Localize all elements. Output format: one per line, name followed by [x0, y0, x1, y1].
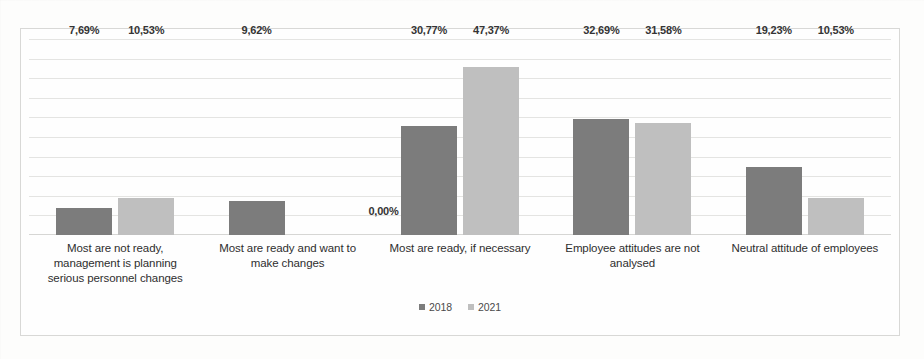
bar-group: 30,77% 47,37% — [374, 39, 546, 235]
bar-value-label: 19,23% — [756, 24, 792, 36]
bar-slot: 30,77% — [401, 39, 457, 235]
bar-slot: 47,37% — [463, 39, 519, 235]
bar-slot: 9,62% — [229, 39, 285, 235]
bar-2018[interactable] — [401, 126, 457, 235]
bar-2018[interactable] — [746, 167, 802, 235]
bar-slot: 19,23% — [746, 39, 802, 235]
bar-value-label: 47,37% — [473, 24, 509, 36]
plot-area: 7,69% 10,53% 9,62% 0,00% — [29, 39, 891, 235]
legend-label: 2021 — [478, 301, 501, 313]
bar-2021[interactable] — [808, 198, 864, 235]
legend-swatch-icon — [468, 304, 474, 310]
category-label: Most are not ready, management is planni… — [29, 241, 201, 286]
bar-value-label: 30,77% — [411, 24, 447, 36]
category-label-line: serious personnel changes — [31, 271, 199, 286]
bar-2021[interactable] — [635, 123, 691, 235]
category-label: Most are ready, if necessary — [374, 241, 546, 286]
bar-slot: 7,69% — [56, 39, 112, 235]
bar-value-label: 31,58% — [645, 24, 681, 36]
category-label-line: Most are ready and want to — [203, 241, 371, 256]
bar-value-label: 9,62% — [242, 24, 272, 36]
bar-value-label: 10,53% — [818, 24, 854, 36]
category-label-line: make changes — [203, 256, 371, 271]
bar-slot: 32,69% — [573, 39, 629, 235]
bar-value-label: 10,53% — [128, 24, 164, 36]
bar-group: 7,69% 10,53% — [29, 39, 201, 235]
category-label-line: Employee attitudes are not — [548, 241, 716, 256]
bar-group: 19,23% 10,53% — [719, 39, 891, 235]
bar-slot: 31,58% — [635, 39, 691, 235]
category-axis: Most are not ready, management is planni… — [29, 241, 891, 286]
bars-layer: 7,69% 10,53% 9,62% 0,00% — [29, 39, 891, 235]
bar-group: 32,69% 31,58% — [546, 39, 718, 235]
bar-2018[interactable] — [573, 119, 629, 235]
bar-2021[interactable] — [118, 198, 174, 235]
bar-value-label: 0,00% — [368, 205, 398, 217]
category-label-line: analysed — [548, 256, 716, 271]
chart-container: 7,69% 10,53% 9,62% 0,00% — [20, 28, 900, 336]
category-label-line: Most are not ready, — [31, 241, 199, 256]
legend-swatch-icon — [419, 304, 425, 310]
bar-2018[interactable] — [229, 201, 285, 235]
bar-slot: 10,53% — [808, 39, 864, 235]
legend-label: 2018 — [429, 301, 452, 313]
category-label-line: Most are ready, if necessary — [376, 241, 544, 256]
bar-value-label: 32,69% — [583, 24, 619, 36]
bar-value-label: 7,69% — [69, 24, 99, 36]
category-label: Employee attitudes are not analysed — [546, 241, 718, 286]
legend-item-2018[interactable]: 2018 — [419, 301, 452, 313]
category-label: Neutral attitude of employees — [719, 241, 891, 286]
bar-slot: 10,53% — [118, 39, 174, 235]
category-label-line: management is planning — [31, 256, 199, 271]
bar-slot: 0,00% — [291, 39, 347, 235]
bar-2018[interactable] — [56, 208, 112, 235]
legend-item-2021[interactable]: 2021 — [468, 301, 501, 313]
category-label: Most are ready and want to make changes — [201, 241, 373, 286]
bar-2021[interactable] — [463, 67, 519, 235]
category-label-line: Neutral attitude of employees — [721, 241, 889, 256]
legend: 2018 2021 — [21, 301, 899, 313]
bar-group: 9,62% 0,00% — [201, 39, 373, 235]
